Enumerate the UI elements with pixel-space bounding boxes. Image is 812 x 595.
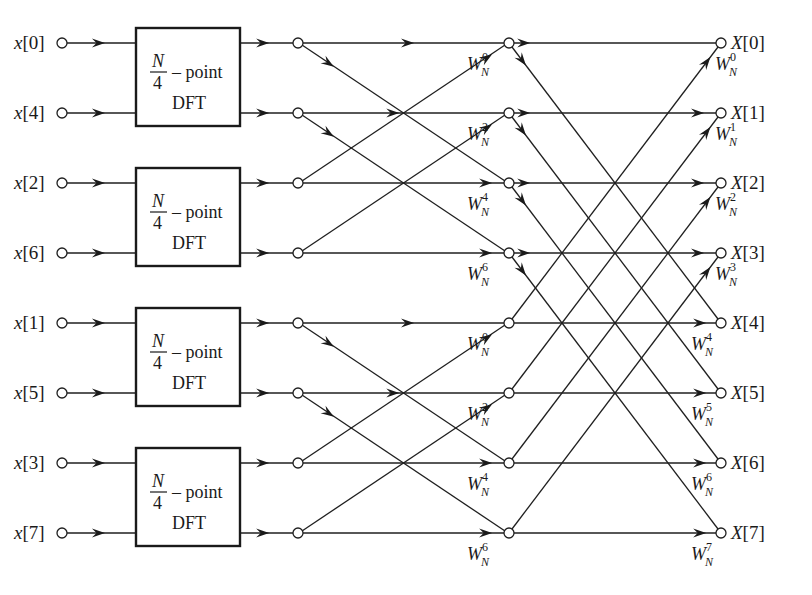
dft-label: DFT	[172, 373, 206, 393]
output-node	[716, 248, 726, 258]
stage1-node	[293, 388, 303, 398]
output-node	[716, 178, 726, 188]
fraction-denominator: 4	[153, 493, 162, 513]
fraction-numerator: N	[151, 51, 165, 71]
stage1-node	[293, 108, 303, 118]
arrowhead-icon	[321, 406, 334, 417]
output-label-5: X[5]	[730, 382, 765, 403]
stage1-twiddle-label: W2N	[467, 400, 490, 429]
stage1-node	[293, 248, 303, 258]
arrowhead-icon	[515, 192, 526, 205]
stage2-node	[504, 528, 514, 538]
stage2-node	[504, 458, 514, 468]
point-label: – point	[171, 62, 223, 82]
arrowhead-icon	[321, 56, 334, 67]
fraction-numerator: N	[151, 331, 165, 351]
input-node	[57, 458, 67, 468]
stage1-node	[293, 178, 303, 188]
stage2-node	[504, 388, 514, 398]
stage1-twiddle-label: W2N	[467, 120, 490, 149]
stage2-twiddle-label: W5N	[691, 400, 714, 429]
stage1-twiddle-label: W0N	[467, 50, 490, 79]
input-label-5: x[5]	[13, 382, 45, 403]
output-label-3: X[3]	[730, 242, 765, 263]
input-node	[57, 38, 67, 48]
fraction-denominator: 4	[153, 213, 162, 233]
stage1-node	[293, 318, 303, 328]
arrowhead-icon	[321, 126, 334, 137]
fft-diagram-svg: N4– pointDFTN4– pointDFTN4– pointDFTN4– …	[0, 0, 812, 595]
fraction-denominator: 4	[153, 73, 162, 93]
point-label: – point	[171, 482, 223, 502]
dft-block-2: N4– pointDFT	[136, 308, 240, 406]
stage2-twiddle-label: W7N	[691, 540, 714, 569]
stage1-twiddle-label: W4N	[467, 190, 490, 219]
fraction-numerator: N	[151, 191, 165, 211]
dft-block-3: N4– pointDFT	[136, 448, 240, 546]
stage1-twiddle-label: W4N	[467, 470, 490, 499]
stage2-twiddle-label: W4N	[691, 330, 714, 359]
stage2-node	[504, 178, 514, 188]
input-node	[57, 528, 67, 538]
arrowhead-icon	[699, 197, 710, 210]
dft-block-1: N4– pointDFT	[136, 168, 240, 266]
output-node	[716, 388, 726, 398]
output-node	[716, 108, 726, 118]
arrowhead-icon	[321, 336, 334, 347]
input-label-2: x[2]	[13, 172, 45, 193]
stage2-twiddle-label: W2N	[715, 190, 738, 219]
input-label-4: x[4]	[13, 102, 45, 123]
stage2-twiddle-label: W3N	[715, 260, 738, 289]
stage1-node	[293, 38, 303, 48]
stage1-node	[293, 528, 303, 538]
dft-label: DFT	[172, 513, 206, 533]
arrowhead-icon	[699, 127, 710, 140]
input-label-1: x[1]	[13, 312, 45, 333]
output-node	[716, 528, 726, 538]
stage2-twiddle-label: W0N	[715, 50, 738, 79]
stage1-twiddle-label: W6N	[467, 540, 490, 569]
output-node	[716, 38, 726, 48]
output-label-1: X[1]	[730, 102, 765, 123]
output-node	[716, 458, 726, 468]
dft-label: DFT	[172, 93, 206, 113]
output-label-0: X[0]	[730, 32, 765, 53]
arrowhead-icon	[515, 262, 526, 275]
point-label: – point	[171, 342, 223, 362]
stage1-twiddle-label: W6N	[467, 260, 490, 289]
output-label-7: X[7]	[730, 522, 765, 543]
input-label-0: x[0]	[13, 32, 45, 53]
stage2-twiddle-label: W1N	[715, 120, 738, 149]
arrowhead-icon	[699, 267, 710, 280]
input-label-6: x[6]	[13, 242, 45, 263]
fraction-numerator: N	[151, 471, 165, 491]
fraction-denominator: 4	[153, 353, 162, 373]
arrowhead-icon	[699, 57, 710, 70]
input-label-3: x[3]	[13, 452, 45, 473]
dft-label: DFT	[172, 233, 206, 253]
output-node	[716, 318, 726, 328]
input-node	[57, 178, 67, 188]
input-label-7: x[7]	[13, 522, 45, 543]
input-node	[57, 108, 67, 118]
arrowhead-icon	[515, 122, 526, 135]
fft-flow-graph: N4– pointDFTN4– pointDFTN4– pointDFTN4– …	[0, 0, 812, 595]
point-label: – point	[171, 202, 223, 222]
stage2-node	[504, 38, 514, 48]
dft-blocks: N4– pointDFTN4– pointDFTN4– pointDFTN4– …	[136, 28, 240, 546]
output-label-6: X[6]	[730, 452, 765, 473]
stage2-twiddle-label: W6N	[691, 470, 714, 499]
output-label-4: X[4]	[730, 312, 765, 333]
stage1-node	[293, 458, 303, 468]
stage2-node	[504, 248, 514, 258]
input-node	[57, 388, 67, 398]
dft-block-0: N4– pointDFT	[136, 28, 240, 126]
input-node	[57, 248, 67, 258]
stage1-twiddle-label: W0N	[467, 330, 490, 359]
stage2-node	[504, 108, 514, 118]
arrowhead-icon	[515, 52, 526, 65]
stage2-node	[504, 318, 514, 328]
output-label-2: X[2]	[730, 172, 765, 193]
input-node	[57, 318, 67, 328]
